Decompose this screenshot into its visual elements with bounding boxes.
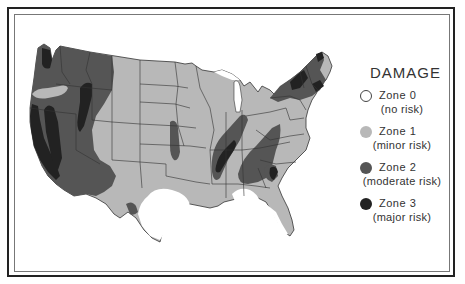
legend-zone-label: Zone 3: [379, 197, 416, 209]
legend: DAMAGE Zone 0 (no risk) Zone 1 (minor ri…: [355, 64, 450, 233]
zone3-swatch-icon: [360, 198, 372, 210]
legend-zone-description: (moderate risk): [355, 175, 449, 187]
zone0-swatch-icon: [360, 90, 372, 102]
legend-zone-description: (no risk): [355, 103, 449, 115]
legend-zone-description: (minor risk): [355, 139, 449, 151]
legend-title: DAMAGE: [361, 64, 450, 81]
legend-zone-label: Zone 1: [379, 125, 416, 137]
legend-zone-label: Zone 2: [379, 161, 416, 173]
legend-zone-description: (major risk): [355, 211, 449, 223]
legend-item-zone3: Zone 3 (major risk): [355, 197, 450, 233]
legend-item-zone0: Zone 0 (no risk): [355, 89, 450, 125]
legend-item-zone2: Zone 2 (moderate risk): [355, 161, 450, 197]
legend-zone-label: Zone 0: [379, 89, 416, 101]
zone1-swatch-icon: [360, 126, 372, 138]
zone2-swatch-icon: [360, 162, 372, 174]
legend-item-zone1: Zone 1 (minor risk): [355, 125, 450, 161]
